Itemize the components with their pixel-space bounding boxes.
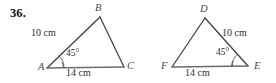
side-length-fe: 14 cm <box>185 68 210 78</box>
side-length-ac: 14 cm <box>66 68 91 78</box>
segment-de <box>205 18 248 66</box>
side-length-de: 10 cm <box>222 28 247 38</box>
vertex-label-c: C <box>127 61 134 72</box>
exercise-figure: 36. A B C 10 cm 14 cm 45° D E F 1 <box>0 0 276 83</box>
segment-bc <box>100 17 124 67</box>
triangle-def-shape <box>172 18 248 67</box>
segment-ab <box>47 17 100 68</box>
vertex-label-f: F <box>161 61 167 72</box>
vertex-label-e: E <box>254 61 260 72</box>
angle-measure-e: 45° <box>216 48 229 58</box>
vertex-label-b: B <box>95 3 101 14</box>
vertex-label-a: A <box>38 62 44 73</box>
segment-fe <box>172 66 248 67</box>
segment-fd <box>172 18 205 67</box>
side-length-ab: 10 cm <box>31 28 56 38</box>
triangle-abc-shape <box>47 17 124 68</box>
vertex-label-d: D <box>200 4 208 15</box>
angle-measure-a: 45° <box>66 49 79 59</box>
